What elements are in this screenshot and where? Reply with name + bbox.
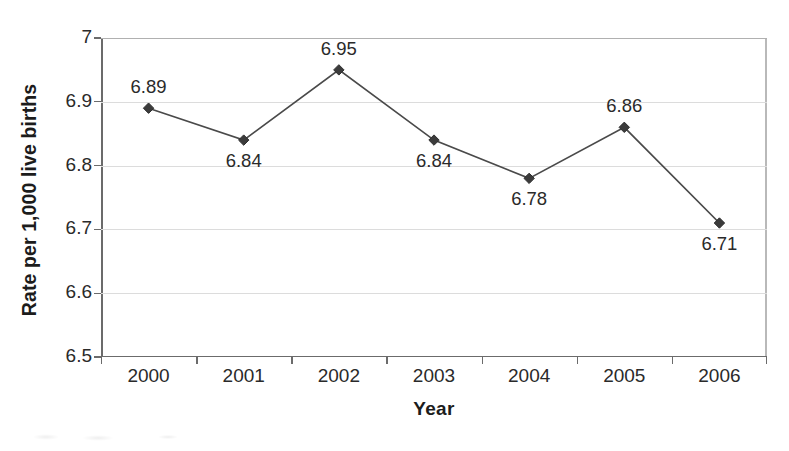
y-axis-tick-label: 6.7 [12, 217, 92, 239]
y-axis-tick [94, 165, 101, 166]
y-axis-tick-label: 7 [12, 26, 92, 48]
y-axis-tick-label: 6.8 [12, 154, 92, 176]
data-point-marker [143, 103, 153, 113]
series-markers [143, 65, 724, 229]
x-axis-tick [291, 356, 292, 364]
data-point-label: 6.84 [199, 150, 289, 172]
x-axis-tick-label: 2001 [194, 365, 294, 387]
x-axis-tick [482, 356, 483, 364]
y-axis-tick [94, 356, 101, 357]
data-series [101, 38, 767, 357]
x-axis-tick-label: 2005 [574, 365, 674, 387]
data-point-label: 6.86 [579, 95, 669, 117]
data-point-label: 6.95 [294, 38, 384, 60]
data-point-label: 6.71 [674, 233, 764, 255]
y-axis-title: Rate per 1,000 live births [12, 20, 46, 380]
y-axis-tick-label: 6.5 [12, 345, 92, 367]
data-point-marker [524, 173, 534, 183]
data-point-label: 6.78 [484, 188, 574, 210]
x-axis-title: Year [101, 398, 767, 420]
data-point-label: 6.89 [104, 76, 194, 98]
y-axis-tick [94, 229, 101, 230]
plot-area [101, 38, 767, 357]
x-axis-tick [196, 356, 197, 364]
x-axis-tick-label: 2003 [384, 365, 484, 387]
x-axis-tick [766, 356, 767, 364]
x-axis-tick-label: 2000 [99, 365, 199, 387]
x-axis-tick-label: 2006 [669, 365, 769, 387]
y-axis-tick-label: 6.9 [12, 90, 92, 112]
x-axis-tick [577, 356, 578, 364]
x-axis-tick [386, 356, 387, 364]
y-axis-tick-label: 6.6 [12, 281, 92, 303]
line-chart: Rate per 1,000 live births 76.96.86.76.6… [0, 0, 789, 451]
y-axis-tick [94, 293, 101, 294]
x-axis-tick [101, 356, 102, 364]
y-axis-tick [94, 101, 101, 102]
data-point-label: 6.84 [389, 150, 479, 172]
series-line [149, 70, 720, 223]
x-axis-tick [672, 356, 673, 364]
x-axis-tick-label: 2002 [289, 365, 389, 387]
y-axis-tick [94, 37, 101, 38]
x-axis-tick-label: 2004 [479, 365, 579, 387]
scan-artifact [28, 432, 203, 442]
